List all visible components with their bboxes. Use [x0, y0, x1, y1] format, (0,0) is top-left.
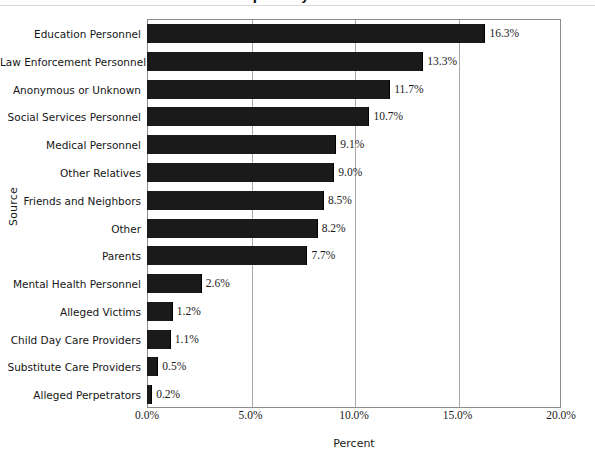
y-axis-tick-labels: Education PersonnelLaw Enforcement Perso…: [0, 19, 147, 408]
bar: [147, 80, 390, 99]
bar-row: 8.5%: [147, 186, 561, 216]
bar-row: 9.1%: [147, 130, 561, 160]
bar-row: 8.2%: [147, 214, 561, 244]
bar-row: 1.2%: [147, 297, 561, 327]
bar-value-label: 7.7%: [311, 247, 335, 264]
bar-value-label: 1.2%: [177, 303, 201, 320]
x-tick-label: 0.0%: [135, 409, 159, 421]
bar-value-label: 8.5%: [328, 192, 352, 209]
bar-row: 11.7%: [147, 75, 561, 105]
y-tick-label: Education Personnel: [0, 27, 147, 41]
y-tick-label: Other: [0, 222, 147, 236]
x-axis-title: Percent: [147, 437, 561, 450]
y-tick-label: Other Relatives: [0, 166, 147, 180]
bar: [147, 135, 336, 154]
bar: [147, 302, 173, 321]
y-tick-label: Mental Health Personnel: [0, 277, 147, 291]
x-tick-label: 10.0%: [339, 409, 369, 421]
bar-value-label: 10.7%: [373, 108, 403, 125]
bar-value-label: 1.1%: [175, 331, 199, 348]
bar-value-label: 0.2%: [156, 386, 180, 403]
bar: [147, 191, 324, 210]
y-tick-label: Alleged Victims: [0, 305, 147, 319]
y-tick-label: Medical Personnel: [0, 138, 147, 152]
x-tick-label: 15.0%: [443, 409, 473, 421]
y-tick-label: Alleged Perpetrators: [0, 388, 147, 402]
bar-chart: Reports by Source Source Education Perso…: [0, 0, 595, 467]
bar-row: 16.3%: [147, 19, 561, 49]
bar-value-label: 9.1%: [340, 136, 364, 153]
bar-value-label: 8.2%: [322, 220, 346, 237]
bar: [147, 357, 158, 376]
bar: [147, 330, 171, 349]
bar: [147, 163, 334, 182]
bar-row: 2.6%: [147, 269, 561, 299]
bar: [147, 274, 202, 293]
y-tick-label: Social Services Personnel: [0, 110, 147, 124]
x-axis-tick-labels: 0.0%5.0%10.0%15.0%20.0%: [147, 409, 561, 425]
bar: [147, 385, 152, 404]
bar-row: 0.2%: [147, 380, 561, 410]
bar-row: 0.5%: [147, 352, 561, 382]
bar-series: 16.3%13.3%11.7%10.7%9.1%9.0%8.5%8.2%7.7%…: [147, 19, 561, 408]
bar: [147, 246, 307, 265]
bar-row: 13.3%: [147, 47, 561, 77]
bar-row: 1.1%: [147, 325, 561, 355]
bar-value-label: 0.5%: [162, 358, 186, 375]
title-divider: [0, 5, 595, 6]
bar: [147, 219, 318, 238]
bar: [147, 24, 485, 43]
bar-value-label: 13.3%: [427, 53, 457, 70]
bar-value-label: 16.3%: [489, 25, 519, 42]
x-tick-label: 20.0%: [546, 409, 576, 421]
chart-title: Reports by Source: [0, 0, 595, 3]
bar-value-label: 9.0%: [338, 164, 362, 181]
y-tick-label: Substitute Care Providers: [0, 360, 147, 374]
x-tick-label: 5.0%: [239, 409, 263, 421]
bar: [147, 107, 369, 126]
bar-row: 10.7%: [147, 102, 561, 132]
y-tick-label: Anonymous or Unknown: [0, 83, 147, 97]
y-tick-label: Law Enforcement Personnel: [0, 55, 147, 69]
bar-row: 7.7%: [147, 241, 561, 271]
bar-value-label: 2.6%: [206, 275, 230, 292]
y-tick-label: Friends and Neighbors: [0, 194, 147, 208]
bar-row: 9.0%: [147, 158, 561, 188]
y-tick-label: Parents: [0, 249, 147, 263]
bar-value-label: 11.7%: [394, 81, 423, 98]
y-tick-label: Child Day Care Providers: [0, 333, 147, 347]
bar: [147, 52, 423, 71]
